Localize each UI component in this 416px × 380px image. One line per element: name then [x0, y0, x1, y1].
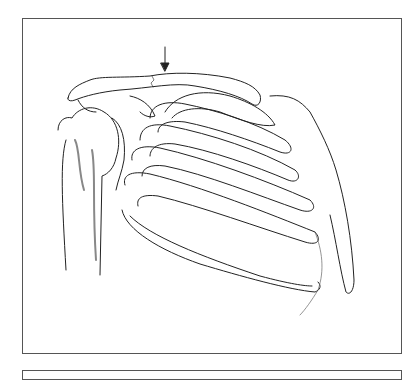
humerus — [58, 108, 119, 275]
rib-2 — [150, 103, 291, 153]
rib-1 — [165, 93, 275, 126]
clavicle — [68, 73, 261, 105]
rib-3 — [140, 125, 299, 181]
sternum — [270, 96, 354, 294]
arrow-icon — [161, 47, 169, 71]
